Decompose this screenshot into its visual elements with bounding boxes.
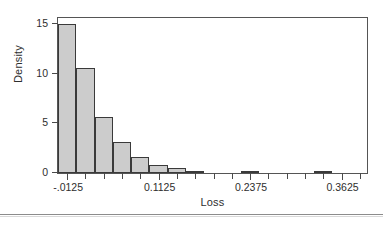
y-axis-tick: 15 bbox=[52, 23, 58, 24]
y-axis-label: Density bbox=[12, 24, 24, 104]
histogram-bar bbox=[58, 24, 76, 173]
x-axis-tick bbox=[268, 173, 269, 179]
x-axis-tick-label: -.0125 bbox=[53, 181, 83, 193]
histogram-bar bbox=[149, 165, 167, 173]
x-axis-tick bbox=[85, 173, 86, 179]
x-axis-tick: -.0125 bbox=[67, 173, 68, 180]
x-axis-tick-label: 0.1125 bbox=[144, 181, 175, 193]
bars-group bbox=[58, 18, 367, 173]
y-axis-tick-label: 10 bbox=[36, 67, 48, 79]
x-axis-tick bbox=[140, 173, 141, 179]
x-axis-tick: 0.3625 bbox=[342, 173, 343, 180]
histogram-bar bbox=[131, 157, 149, 173]
histogram-bar bbox=[76, 68, 94, 173]
x-axis-tick: 0.1125 bbox=[159, 173, 160, 180]
x-axis-tick bbox=[305, 173, 306, 179]
x-axis-tick bbox=[232, 173, 233, 179]
x-axis-tick bbox=[287, 173, 288, 179]
y-axis-tick: 5 bbox=[52, 122, 58, 123]
x-axis-tick bbox=[214, 173, 215, 179]
page-divider-rule-shadow bbox=[0, 216, 383, 217]
x-axis-tick-label: 0.3625 bbox=[326, 181, 358, 193]
histogram-bar bbox=[95, 117, 113, 173]
y-axis-tick-label: 0 bbox=[42, 166, 48, 178]
x-axis-tick bbox=[195, 173, 196, 179]
x-axis-tick bbox=[104, 173, 105, 179]
x-axis-tick-label: 0.2375 bbox=[235, 181, 267, 193]
y-axis-tick-label: 15 bbox=[36, 17, 48, 29]
plot-area: 051015 -.01250.11250.23750.3625 bbox=[57, 17, 368, 174]
x-axis-tick bbox=[323, 173, 324, 179]
y-axis-tick: 0 bbox=[52, 172, 58, 173]
x-axis-tick bbox=[177, 173, 178, 179]
x-axis-tick: 0.2375 bbox=[250, 173, 251, 180]
y-axis-tick: 10 bbox=[52, 73, 58, 74]
page-divider-rule bbox=[0, 214, 383, 215]
x-axis-tick bbox=[122, 173, 123, 179]
y-axis-tick-label: 5 bbox=[42, 116, 48, 128]
histogram-bar bbox=[113, 142, 131, 173]
histogram-figure: Density 051015 -.01250.11250.23750.3625 … bbox=[0, 0, 383, 226]
x-axis-tick bbox=[360, 173, 361, 179]
x-axis-label: Loss bbox=[57, 196, 368, 208]
